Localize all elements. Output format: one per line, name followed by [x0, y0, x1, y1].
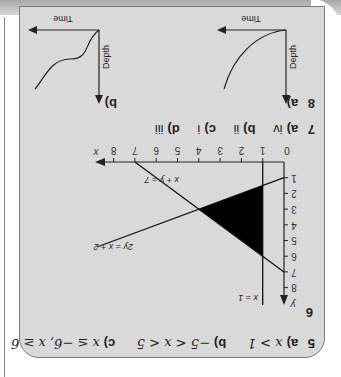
answer-7a: iv [273, 122, 282, 137]
answer-7b: ii [234, 122, 240, 137]
question-number: 7 [308, 122, 315, 137]
svg-text:3: 3 [291, 204, 297, 215]
svg-text:6: 6 [153, 145, 159, 156]
question-7: 7 a)iv b)ii c)i d)iii [155, 122, 315, 137]
depth-time-curve-b [35, 30, 99, 89]
svg-text:3: 3 [217, 145, 223, 156]
answer-7d: iii [155, 122, 164, 137]
svg-text:x: x [93, 147, 100, 158]
question-8b: b) [101, 96, 123, 111]
graph-b-label: b) [105, 96, 117, 111]
svg-text:x = 1: x = 1 [238, 293, 259, 303]
svg-text:2: 2 [291, 188, 297, 199]
inequality-graph: 0 1 2 3 4 5 6 7 8 x 1 2 3 4 5 6 7 8 y x … [0, 0, 341, 377]
svg-text:1: 1 [259, 145, 265, 156]
svg-text:5: 5 [174, 145, 180, 156]
svg-text:7: 7 [132, 145, 138, 156]
svg-text:Time: Time [241, 14, 261, 24]
svg-text:y: y [290, 299, 297, 310]
svg-text:Depth: Depth [288, 45, 298, 69]
svg-text:7: 7 [291, 267, 297, 278]
svg-text:0: 0 [284, 145, 290, 156]
svg-text:x + y = 7: x + y = 7 [143, 175, 180, 185]
svg-text:1: 1 [291, 173, 297, 184]
graph-a-label: a) [287, 96, 299, 111]
svg-text:2: 2 [238, 145, 244, 156]
y-axis-arrow-icon [280, 295, 288, 305]
svg-text:Depth: Depth [101, 45, 111, 69]
shaded-region [199, 186, 263, 257]
time-arrow-icon [28, 26, 37, 34]
svg-text:8: 8 [110, 145, 116, 156]
time-arrow-icon [217, 26, 226, 34]
question-number: 8 [308, 96, 315, 111]
answer-page: 5 a)x > 1 b)−5 < x < 5 c)x ≤ −6, x ≥ 6 6 [0, 0, 341, 377]
x-axis-arrow-icon [95, 158, 105, 166]
answer-7c: i [197, 122, 200, 137]
svg-text:8: 8 [291, 282, 297, 293]
question-8: 8 a) [283, 96, 315, 111]
svg-text:5: 5 [291, 235, 297, 246]
svg-text:Time: Time [53, 14, 73, 24]
svg-text:4: 4 [196, 145, 202, 156]
svg-text:6: 6 [291, 251, 297, 262]
svg-text:4: 4 [291, 220, 297, 231]
depth-time-curve-a [224, 30, 286, 89]
svg-text:2y = x + 2: 2y = x + 2 [93, 242, 134, 252]
